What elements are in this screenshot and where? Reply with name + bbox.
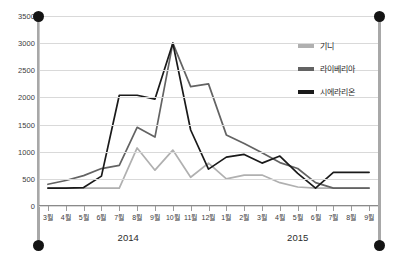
- y-axis-tick-label: 1000: [18, 147, 35, 156]
- legend-label: 기니: [320, 40, 334, 51]
- x-axis-tick: [137, 206, 138, 211]
- x-axis-tick-label: 1월: [221, 212, 231, 222]
- x-axis-tick: [101, 206, 102, 211]
- y-axis-tick-label: 1500: [18, 120, 35, 129]
- x-axis-tick: [280, 206, 281, 211]
- x-axis-tick-label: 10월: [166, 212, 180, 222]
- x-axis-year-label: 2014: [118, 232, 139, 243]
- y-axis-tick-label: 500: [22, 174, 35, 183]
- legend-item[interactable]: 기니: [298, 34, 355, 57]
- gridline: [39, 16, 378, 17]
- legend-label: 라이베리아: [320, 63, 355, 74]
- x-axis-tick: [119, 206, 120, 211]
- x-axis-tick-label: 7월: [114, 212, 124, 222]
- legend-label: 시에라리온: [320, 86, 355, 97]
- x-axis-tick: [66, 206, 67, 211]
- x-axis-tick-label: 6월: [96, 212, 106, 222]
- selection-handle-top-left[interactable]: [33, 11, 44, 22]
- legend-item[interactable]: 시에라리온: [298, 80, 355, 103]
- x-axis-tick: [155, 206, 156, 211]
- y-axis-line: [39, 16, 40, 206]
- x-axis-tick-label: 6월: [311, 212, 321, 222]
- x-axis-tick-label: 4월: [61, 212, 71, 222]
- legend-swatch-icon: [298, 67, 314, 71]
- x-axis-tick-label: 8월: [132, 212, 142, 222]
- x-axis-tick: [191, 206, 192, 211]
- x-axis-tick-label: 3월: [257, 212, 267, 222]
- x-axis-year-labels: 20142015: [39, 232, 378, 248]
- chart-legend: 기니라이베리아시에라리온: [298, 34, 355, 103]
- x-axis-tick-label: 12월: [202, 212, 216, 222]
- x-axis-labels: 3월4월5월6월7월8월9월10월11월12월1월2월3월4월5월6월7월8월9…: [39, 212, 378, 226]
- x-axis-tick: [173, 206, 174, 211]
- selection-handle-bottom-left[interactable]: [33, 240, 44, 251]
- x-axis-tick-label: 9월: [364, 212, 374, 222]
- x-axis-tick-label: 5월: [293, 212, 303, 222]
- x-axis-tick-label: 3월: [43, 212, 53, 222]
- x-axis-tick: [244, 206, 245, 211]
- y-axis-tick-label: 3000: [18, 39, 35, 48]
- y-axis-tick-label: 0: [31, 202, 35, 211]
- legend-swatch-icon: [298, 90, 314, 94]
- gridline: [39, 125, 378, 126]
- x-axis-tick: [298, 206, 299, 211]
- x-axis-tick: [316, 206, 317, 211]
- x-axis-tick-label: 11월: [184, 212, 197, 222]
- selection-handle-bottom-right[interactable]: [374, 240, 385, 251]
- x-axis-tick-label: 8월: [346, 212, 356, 222]
- x-axis-tick: [369, 206, 370, 211]
- x-axis-year-label: 2015: [287, 232, 308, 243]
- x-axis-tick-label: 2월: [239, 212, 249, 222]
- selection-handle-top-right[interactable]: [374, 11, 385, 22]
- x-axis-tick: [262, 206, 263, 211]
- x-axis-tick: [48, 206, 49, 211]
- x-axis-tick-label: 7월: [328, 212, 338, 222]
- gridline: [39, 152, 378, 153]
- x-axis-tick: [333, 206, 334, 211]
- gridline: [39, 179, 378, 180]
- x-axis-tick: [226, 206, 227, 211]
- selection-stem-right: [378, 16, 381, 245]
- x-axis-tick: [351, 206, 352, 211]
- y-axis-tick-label: 2000: [18, 93, 35, 102]
- x-axis-tick-label: 9월: [150, 212, 160, 222]
- legend-swatch-icon: [298, 44, 314, 48]
- x-axis-tick: [84, 206, 85, 211]
- x-axis-tick-label: 4월: [275, 212, 285, 222]
- x-axis-tick: [209, 206, 210, 211]
- legend-item[interactable]: 라이베리아: [298, 57, 355, 80]
- x-axis-tick-label: 5월: [79, 212, 89, 222]
- y-axis-tick-label: 2500: [18, 66, 35, 75]
- chart-canvas: 0500100015002000250030003500 3월4월5월6월7월8…: [0, 0, 399, 265]
